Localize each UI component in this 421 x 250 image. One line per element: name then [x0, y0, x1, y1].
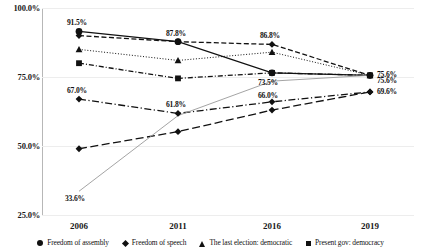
- data-label: 67.0%: [67, 87, 87, 95]
- legend-label: The last election: democratic: [209, 239, 292, 246]
- legend-item-last-election-democratic[interactable]: The last election: democratic: [199, 239, 292, 246]
- series-line-0: [79, 31, 370, 75]
- data-point-marker: [76, 96, 83, 103]
- series-line-5: [79, 92, 370, 149]
- legend-label: Present gov: democracy: [315, 239, 384, 246]
- data-point-marker: [175, 75, 181, 81]
- data-label: 69.6%: [377, 88, 397, 96]
- series-line-2: [79, 49, 370, 75]
- data-point-marker: [269, 70, 275, 76]
- data-point-marker: [175, 110, 182, 117]
- series-line-4: [79, 92, 370, 114]
- data-point-marker: [269, 107, 276, 114]
- circle-marker-icon: [37, 240, 44, 247]
- data-label: 86.8%: [260, 32, 280, 40]
- data-label: 75.6%: [377, 77, 397, 85]
- data-point-marker: [76, 46, 83, 52]
- series-line-6: [79, 75, 370, 191]
- data-label: 33.6%: [65, 195, 85, 203]
- chart-legend: Freedom of assembly Freedom of speech Th…: [0, 236, 421, 250]
- square-marker-icon: [305, 240, 312, 247]
- legend-item-freedom-of-assembly[interactable]: Freedom of assembly: [37, 239, 109, 246]
- data-point-marker: [367, 72, 373, 78]
- data-label: 91.5%: [67, 19, 87, 27]
- legend-label: Freedom of speech: [132, 239, 187, 246]
- data-point-marker: [367, 89, 374, 96]
- legend-item-present-gov-democracy[interactable]: Present gov: democracy: [305, 239, 384, 246]
- series-layer: [0, 0, 421, 250]
- data-point-marker: [269, 49, 276, 55]
- data-point-marker: [175, 57, 182, 63]
- data-label: 87.8%: [166, 30, 186, 38]
- legend-item-freedom-of-speech[interactable]: Freedom of speech: [122, 239, 187, 246]
- triangle-marker-icon: [199, 240, 206, 247]
- data-label: 61.8%: [166, 101, 186, 109]
- diamond-marker-icon: [122, 240, 129, 247]
- data-label: 66.0%: [258, 92, 278, 100]
- legend-label: Freedom of assembly: [47, 239, 109, 246]
- data-point-marker: [269, 41, 276, 48]
- data-label: 73.5%: [258, 79, 278, 87]
- data-point-marker: [175, 128, 182, 135]
- chart-container: 100.0% 75.0% 50.0% 25.0% 2006 2011 2016 …: [0, 0, 421, 250]
- data-point-marker: [76, 60, 82, 66]
- data-point-marker: [76, 145, 83, 152]
